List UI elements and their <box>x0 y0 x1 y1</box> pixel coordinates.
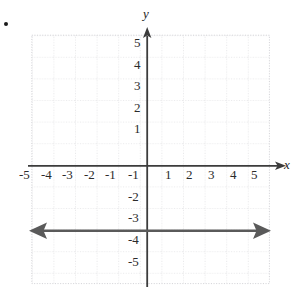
y-tick-label-neg5: -5 <box>128 255 139 268</box>
y-tick-label-4: 4 <box>134 58 141 71</box>
y-tick-label-1: 1 <box>134 122 141 135</box>
y-tick-label-neg1: -1 <box>128 168 139 181</box>
x-tick-label-neg4: -4 <box>41 168 52 181</box>
y-tick-label-neg2: -2 <box>128 190 139 203</box>
y-tick-label-2: 2 <box>134 101 141 114</box>
x-tick-label-neg5: -5 <box>19 168 30 181</box>
y-tick-label-3: 3 <box>134 79 141 92</box>
y-tick-label-5: 5 <box>134 36 141 49</box>
x-tick-label-2: 2 <box>186 168 193 181</box>
x-tick-label-4: 4 <box>230 168 237 181</box>
x-tick-label-neg1: -1 <box>105 168 116 181</box>
coordinate-plane-svg <box>0 0 299 297</box>
x-axis-label: x <box>284 158 290 171</box>
x-tick-label-neg3: -3 <box>62 168 73 181</box>
y-tick-label-neg3: -3 <box>128 211 139 224</box>
x-tick-label-3: 3 <box>208 168 215 181</box>
x-tick-label-5: 5 <box>251 168 258 181</box>
x-tick-label-neg2: -2 <box>84 168 95 181</box>
x-tick-label-1: 1 <box>165 168 172 181</box>
y-tick-label-neg4: -4 <box>128 233 139 246</box>
y-axis-label: y <box>143 7 149 20</box>
grid-area <box>32 35 270 283</box>
graph-figure: y x -5 -4 -3 -2 -1 1 2 3 4 5 5 4 3 2 1 -… <box>0 0 299 297</box>
